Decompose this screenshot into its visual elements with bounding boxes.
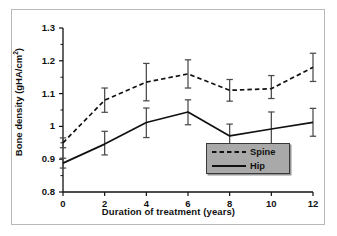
legend-item-hip: Hip [207, 159, 291, 173]
x-tick-label: 6 [175, 198, 201, 209]
x-tick-label: 0 [50, 198, 76, 209]
y-tick-label: 0.8 [29, 186, 55, 197]
chart-legend: Spine Hip [206, 143, 290, 174]
x-tick-label: 2 [92, 198, 118, 209]
figure-container: Bone density (gHA/cm2) Duration of treat… [0, 0, 337, 236]
x-tick-label: 10 [258, 198, 284, 209]
legend-swatch-hip [212, 165, 246, 167]
legend-label-hip: Hip [250, 159, 265, 173]
error-bar [101, 88, 107, 112]
x-tick-label: 8 [217, 198, 243, 209]
legend-swatch-spine [212, 151, 246, 153]
y-tick-label: 1.2 [29, 55, 55, 66]
x-tick-label: 4 [133, 198, 159, 209]
legend-item-spine: Spine [207, 145, 291, 159]
legend-label-spine: Spine [250, 145, 275, 159]
y-axis-label: Bone density (gHA/cm2) [12, 32, 24, 172]
y-tick-label: 0.9 [29, 153, 55, 164]
y-tick-label: 1.1 [29, 88, 55, 99]
y-tick-label: 1.3 [29, 22, 55, 33]
y-tick-label: 1 [29, 120, 55, 131]
x-tick-label: 12 [300, 198, 326, 209]
